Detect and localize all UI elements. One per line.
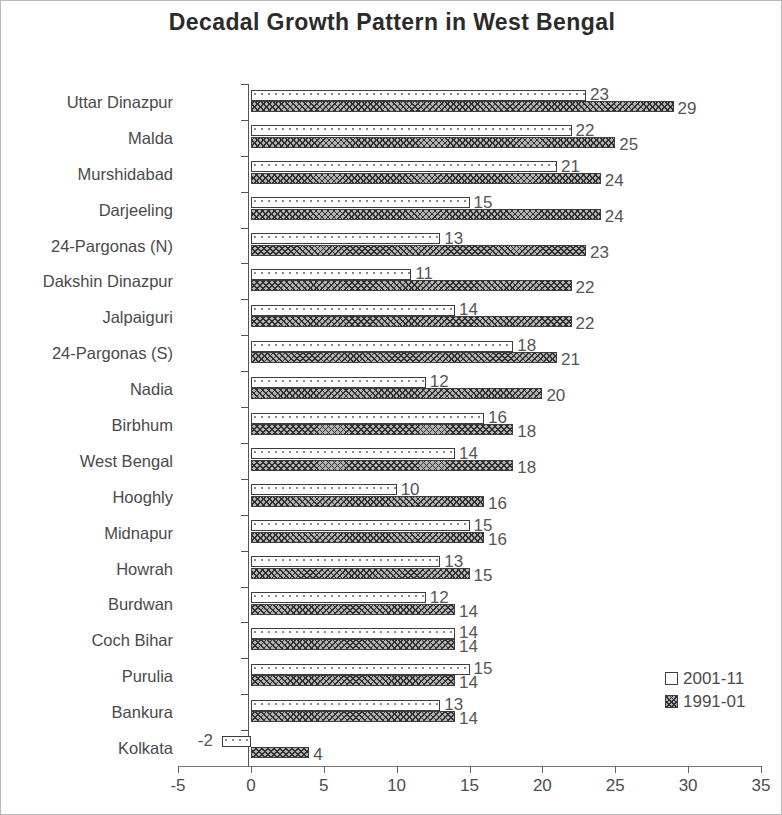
bar-2001-11 [251,592,426,603]
bar-1991-01 [251,460,513,471]
bar-2001-11 [251,341,513,352]
bar-1991-01 [251,675,455,686]
bar-value-label: 22 [576,315,595,332]
x-axis-tick-label: 30 [679,776,698,796]
y-axis-label-west-bengal: West Bengal [3,453,173,470]
bar-group: 1524 [178,192,761,228]
bar-value-label: 14 [459,638,478,655]
bar-group: 1821 [178,335,761,371]
bar-value-label: 23 [590,244,609,261]
legend-label: 1991-01 [683,693,745,710]
y-axis-tick [241,335,248,336]
bar-2001-11 [251,664,470,675]
x-axis-tick-label: 25 [606,776,625,796]
bar-1991-01 [251,532,484,543]
bar-1991-01 [251,424,513,435]
y-axis-label-coch-bihar: Coch Bihar [3,632,173,649]
bar-2001-11 [251,233,440,244]
bar-group: 1618 [178,407,761,443]
bar-2001-11 [251,90,586,101]
bar-value-label: 14 [459,674,478,691]
x-axis-tick [542,766,543,773]
y-axis-label-bankura: Bankura [3,704,173,721]
legend-item-2001-11: 2001-11 [665,667,777,690]
x-axis-tick-label: -5 [170,776,185,796]
x-axis-tick [324,766,325,773]
bar-2001-11 [251,484,397,495]
y-axis-tick [241,156,248,157]
bar-2001-11 [251,269,411,280]
y-axis-tick [241,443,248,444]
bar-1991-01 [251,209,601,220]
bar-1991-01 [251,137,615,148]
bar-value-label: 18 [517,459,536,476]
bar-value-label: 22 [576,279,595,296]
y-axis-label-birbhum: Birbhum [3,417,173,434]
bar-1991-01 [251,352,557,363]
y-axis-category-labels: Uttar DinazpurMaldaMurshidabadDarjeeling… [1,84,173,766]
y-axis-label-kolkata: Kolkata [3,740,173,757]
hatched-square-swatch-icon [665,695,678,708]
y-axis-tick [241,120,248,121]
bar-value-label: 20 [546,387,565,404]
x-axis-tick [688,766,689,773]
bar-value-label: 15 [474,567,493,584]
chart-page: Decadal Growth Pattern in West Bengal Ut… [0,0,782,815]
x-axis-tick-label: 20 [533,776,552,796]
bar-value-label: 21 [561,351,580,368]
bar-1991-01 [251,173,601,184]
y-axis-label-24-pargonas-s: 24-Pargonas (S) [3,345,173,362]
bar-2001-11 [222,736,251,747]
y-axis-tick [241,479,248,480]
bar-value-label: 14 [459,603,478,620]
y-axis-label-nadia: Nadia [3,381,173,398]
bar-2001-11 [251,377,426,388]
y-axis-label-murshidabad: Murshidabad [3,166,173,183]
bar-value-label: 16 [488,531,507,548]
bar-value-label: 25 [619,136,638,153]
bar-group: 1122 [178,263,761,299]
chart-legend: 2001-11 1991-01 [665,667,777,713]
x-axis-tick-label: 35 [752,776,771,796]
bar-value-label: 4 [313,746,322,763]
bar-2001-11 [251,305,455,316]
y-axis-tick [241,371,248,372]
chart-title: Decadal Growth Pattern in West Bengal [1,9,782,36]
bar-2001-11 [251,197,470,208]
x-axis-tick-label: 5 [319,776,328,796]
y-axis-label-midnapur: Midnapur [3,525,173,542]
x-axis-tick [615,766,616,773]
y-axis-label-uttar-dinazpur: Uttar Dinazpur [3,94,173,111]
bar-2001-11 [251,700,440,711]
bar-group: 1418 [178,443,761,479]
x-axis: -505101520253035 [178,766,761,806]
bar-value-label: 14 [459,710,478,727]
x-axis-tick [397,766,398,773]
bar-2001-11 [251,556,440,567]
bar-2001-11 [251,448,455,459]
y-axis-label-purulia: Purulia [3,668,173,685]
legend-label: 2001-11 [683,670,744,687]
y-axis-tick [241,192,248,193]
bar-value-label: 29 [678,100,697,117]
bar-2001-11 [251,628,455,639]
bar-group: 1214 [178,587,761,623]
bar-2001-11 [251,413,484,424]
y-axis-label-malda: Malda [3,130,173,147]
y-axis-tick [241,263,248,264]
bar-2001-11 [251,161,557,172]
bar-1991-01 [251,568,470,579]
y-axis-label-dakshin-dinazpur: Dakshin Dinazpur [3,273,173,290]
y-axis-label-howrah: Howrah [3,561,173,578]
bar-value-label: 24 [605,208,624,225]
bar-1991-01 [251,388,543,399]
bar-group: 1315 [178,551,761,587]
bar-1991-01 [251,245,586,256]
y-axis-label-hooghly: Hooghly [3,489,173,506]
y-axis-label-jalpaiguri: Jalpaiguri [3,309,173,326]
bar-value-label: 24 [605,172,624,189]
y-axis-label-darjeeling: Darjeeling [3,202,173,219]
bar-value-label: 18 [517,423,536,440]
y-axis-label-burdwan: Burdwan [3,596,173,613]
bar-1991-01 [251,747,309,758]
